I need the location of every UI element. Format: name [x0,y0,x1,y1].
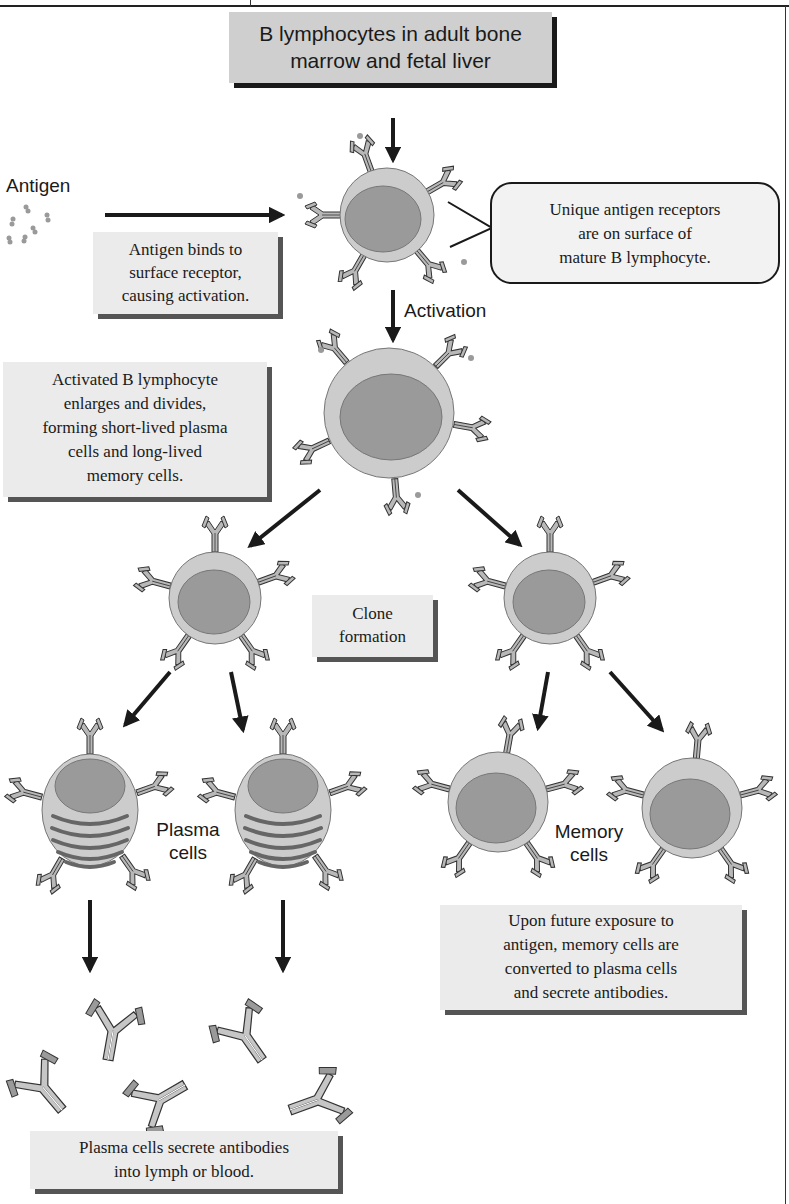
antigen-binds-line-3: causing activation. [93,284,278,307]
mature-b-lymphocyte [297,133,467,293]
antigen-binds-line-2: surface receptor, [93,261,278,284]
plasma-cells-label: Plasma cells [148,818,228,864]
memory-cells-label: Memory cells [544,820,634,866]
clone-line-1: Clone [312,602,433,625]
activated-line-1: Activated B lymphocyte [3,368,267,392]
arrow-to-memory-2 [610,672,662,730]
secreted-antibodies [2,995,355,1140]
memory-future-box: Upon future exposure to antigen, memory … [440,905,742,1010]
plasma-label-line-1: Plasma [148,818,228,841]
precursor-line-1: B lymphocytes in adult bone [229,20,552,47]
memory-future-line-1: Upon future exposure to [440,909,742,933]
antigen-binds-line-1: Antigen binds to [93,238,278,261]
clone-cell-right [467,516,631,673]
arrow-to-plasma-2 [231,672,243,730]
activation-label: Activation [404,300,486,322]
clone-cell-left [132,516,296,673]
clone-line-2: formation [312,625,433,648]
clone-formation-box: Clone formation [312,595,433,657]
unique-receptors-callout: Unique antigen receptors are on surface … [490,182,780,284]
memory-label-line-1: Memory [544,820,634,843]
plasma-secrete-line-1: Plasma cells secrete antibodies [30,1136,338,1160]
activated-line-2: enlarges and divides, [3,392,267,416]
plasma-label-line-2: cells [148,841,228,864]
precursor-box: B lymphocytes in adult bone marrow and f… [229,12,552,83]
activated-line-3: forming short-lived plasma [3,416,267,440]
plasma-cell-1 [4,718,176,896]
callout-pointer [448,202,492,247]
plasma-secrete-box: Plasma cells secrete antibodies into lym… [30,1131,338,1189]
plasma-secrete-line-2: into lymph or blood. [30,1160,338,1184]
arrow-to-plasma-1 [125,672,170,725]
callout-line-2: are on surface of [492,222,778,246]
callout-line-3: mature B lymphocyte. [492,246,778,270]
antigen-label: Antigen [6,175,70,197]
memory-label-line-2: cells [544,843,634,866]
memory-future-line-4: and secrete antibodies. [440,981,742,1005]
activated-line-5: memory cells. [3,464,267,488]
arrow-to-clone-right [458,490,520,545]
activated-b-lymphocyte [291,327,492,516]
memory-future-line-3: converted to plasma cells [440,957,742,981]
arrow-to-memory-1 [538,672,548,728]
memory-future-line-2: antigen, memory cells are [440,933,742,957]
callout-line-1: Unique antigen receptors [492,198,778,222]
antigen-binds-box: Antigen binds to surface receptor, causi… [93,232,278,314]
arrow-to-clone-left [250,490,320,546]
activated-b-box: Activated B lymphocyte enlarges and divi… [3,362,267,497]
antigen-particles [7,205,51,245]
activated-line-4: cells and long-lived [3,440,267,464]
plasma-cell-2 [197,718,369,896]
precursor-line-2: marrow and fetal liver [229,47,552,74]
